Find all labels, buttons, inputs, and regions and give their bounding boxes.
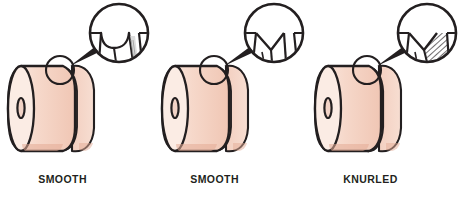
bottom-shadow-band-rear bbox=[386, 143, 400, 151]
caption-smooth-v-groove: SMOOTH V-GROOVE bbox=[170, 157, 239, 201]
pulley-group-knurled-v-groove: KNURLED V-GROOVE bbox=[305, 0, 460, 201]
pulley-illustration-v bbox=[152, 0, 307, 160]
bottom-shadow-band bbox=[176, 144, 217, 151]
caption-line-1: KNURLED bbox=[343, 173, 397, 185]
center-bore-hole bbox=[17, 98, 24, 118]
center-bore-hole bbox=[324, 98, 331, 118]
pulley-groove-diagram: SMOOTH U-GROOVE bbox=[0, 0, 463, 201]
bottom-shadow-band-rear bbox=[233, 143, 247, 151]
caption-knurled-v-groove: KNURLED V-GROOVE bbox=[323, 157, 398, 201]
bottom-shadow-band bbox=[22, 144, 63, 151]
bottom-shadow-band bbox=[329, 144, 369, 151]
caption-line-1: SMOOTH bbox=[190, 173, 239, 185]
center-bore-hole bbox=[171, 98, 178, 118]
knurled-v-groove-detail-content bbox=[396, 2, 460, 64]
caption-line-2: V-GROOVE bbox=[170, 201, 239, 202]
pulley-illustration-u bbox=[0, 0, 155, 160]
pulley-illustration-knurled bbox=[305, 0, 463, 160]
u-groove-detail-content bbox=[88, 2, 152, 64]
caption-line-2: V-GROOVE bbox=[323, 201, 398, 202]
caption-line-1: SMOOTH bbox=[38, 173, 87, 185]
v-groove-detail-content bbox=[243, 2, 307, 64]
bottom-shadow-band-rear bbox=[79, 143, 93, 151]
caption-line-2: U-GROOVE bbox=[18, 201, 87, 202]
pulley-group-smooth-u-groove: SMOOTH U-GROOVE bbox=[0, 0, 155, 201]
caption-smooth-u-groove: SMOOTH U-GROOVE bbox=[18, 157, 87, 201]
pulley-group-smooth-v-groove: SMOOTH V-GROOVE bbox=[152, 0, 307, 201]
